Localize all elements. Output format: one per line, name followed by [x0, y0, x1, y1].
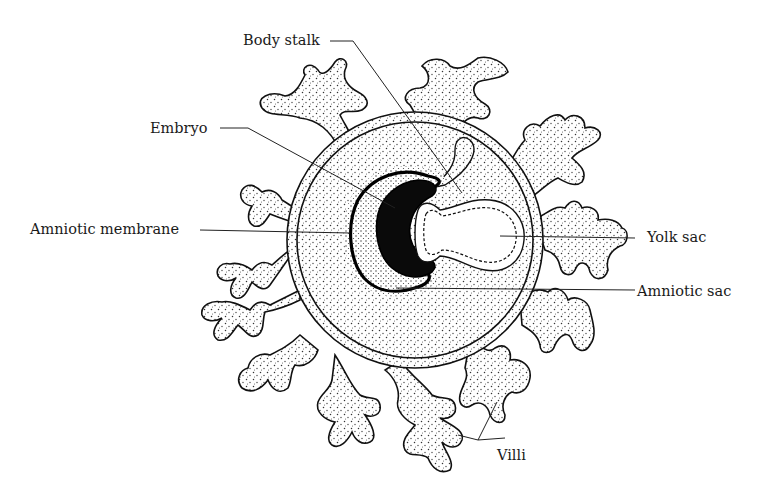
- label-yolk-sac: Yolk sac: [647, 230, 706, 245]
- label-body-stalk: Body stalk: [243, 33, 320, 48]
- diagram-artwork: [0, 0, 760, 488]
- embryo-diagram: Body stalk Embryo Amniotic membrane Yolk…: [0, 0, 760, 488]
- label-villi: Villi: [497, 448, 526, 463]
- label-embryo: Embryo: [150, 121, 207, 136]
- label-amniotic-membrane: Amniotic membrane: [30, 222, 179, 237]
- label-amniotic-sac: Amniotic sac: [637, 284, 731, 299]
